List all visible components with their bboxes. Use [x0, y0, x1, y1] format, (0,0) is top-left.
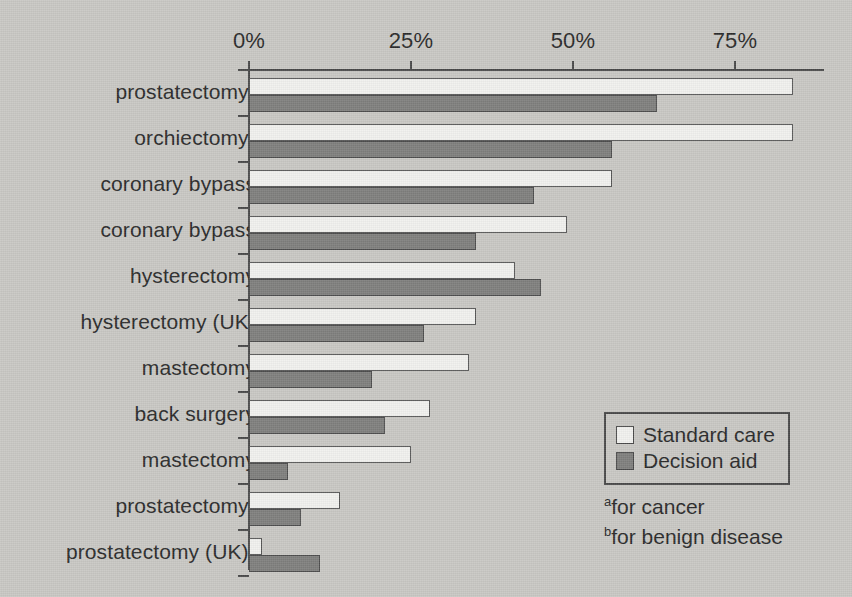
x-axis-line — [248, 69, 824, 71]
bar-standard-care — [249, 124, 793, 141]
category-label: mastectomy — [142, 356, 256, 380]
bar-standard-care — [249, 446, 411, 463]
bar-standard-care — [249, 538, 262, 555]
category-label: prostatectomya — [115, 80, 256, 104]
x-axis-tick-label: 25% — [389, 28, 434, 54]
legend-item: Decision aid — [616, 449, 778, 473]
category-label: coronary bypass — [100, 218, 256, 242]
x-axis-tick — [734, 61, 736, 70]
y-axis-tick — [238, 253, 249, 255]
bar-standard-care — [249, 308, 476, 325]
category-label: mastectomy — [142, 448, 256, 472]
y-axis-tick — [238, 161, 249, 163]
bar-decision-aid — [249, 325, 424, 342]
footnote: afor cancer — [604, 492, 783, 522]
bar-decision-aid — [249, 141, 612, 158]
y-axis-tick — [238, 207, 249, 209]
y-axis-tick — [238, 69, 249, 71]
bar-standard-care — [249, 492, 340, 509]
y-axis-tick — [238, 115, 249, 117]
category-label: hysterectomy — [130, 264, 256, 288]
bar-decision-aid — [249, 463, 288, 480]
bar-decision-aid — [249, 371, 372, 388]
legend-swatch-standard — [616, 426, 634, 444]
y-axis-tick — [238, 345, 249, 347]
category-label: orchiectomya — [134, 126, 256, 150]
bar-decision-aid — [249, 279, 541, 296]
bar-standard-care — [249, 262, 515, 279]
footnote: bfor benign disease — [604, 522, 783, 552]
x-axis-tick-label: 50% — [551, 28, 596, 54]
category-label: prostatectomyb — [115, 494, 256, 518]
y-axis-tick — [238, 575, 249, 577]
legend-item: Standard care — [616, 423, 778, 447]
bar-standard-care — [249, 170, 612, 187]
y-axis-tick — [238, 437, 249, 439]
bar-decision-aid — [249, 555, 320, 572]
bar-standard-care — [249, 354, 469, 371]
x-axis-tick-label: 0% — [233, 28, 265, 54]
category-label: back surgery — [135, 402, 256, 426]
legend-label: Decision aid — [643, 449, 757, 473]
chart-legend: Standard careDecision aid — [604, 412, 790, 485]
chart-page: 0%25%50%75% prostatectomyaorchiectomyaco… — [0, 0, 852, 597]
category-label: prostatectomy (UK)b — [66, 540, 256, 564]
bar-decision-aid — [249, 509, 301, 526]
y-axis-tick — [238, 391, 249, 393]
x-axis-tick — [572, 61, 574, 70]
chart-footnotes: afor cancerbfor benign disease — [604, 492, 783, 552]
y-axis-tick — [238, 483, 249, 485]
bar-decision-aid — [249, 95, 657, 112]
legend-swatch-aid — [616, 452, 634, 470]
bar-decision-aid — [249, 187, 534, 204]
category-label: hysterectomy (UK) — [80, 310, 256, 334]
x-axis-tick — [410, 61, 412, 70]
bar-decision-aid — [249, 233, 476, 250]
bar-standard-care — [249, 78, 793, 95]
bar-standard-care — [249, 400, 430, 417]
bar-decision-aid — [249, 417, 385, 434]
y-axis-tick — [238, 299, 249, 301]
category-label: coronary bypass — [100, 172, 256, 196]
y-axis-tick — [238, 529, 249, 531]
legend-label: Standard care — [643, 423, 775, 447]
x-axis-tick-label: 75% — [713, 28, 758, 54]
bar-standard-care — [249, 216, 567, 233]
